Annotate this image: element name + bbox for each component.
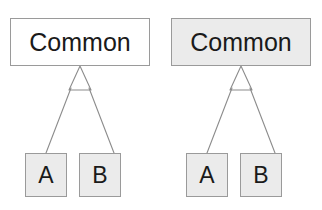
child-class-box-b: B [79,153,121,197]
inheritance-line-a [207,88,232,153]
child-class-label-b: B [253,164,268,187]
inheritance-line-b [89,88,114,153]
generalization-arrowhead [230,66,252,90]
parent-class-box: Common [10,18,150,66]
parent-class-label: Common [29,30,130,55]
inheritance-diagram-right: Common A B [161,0,322,210]
child-class-label-a: A [38,164,53,187]
child-class-box-a: A [186,153,228,197]
diagram-canvas: Common A B Common A B [0,0,322,210]
inheritance-line-b [250,88,275,153]
inheritance-diagram-left: Common A B [0,0,161,210]
child-class-box-a: A [25,153,67,197]
child-class-box-b: B [240,153,282,197]
generalization-arrowhead [69,66,91,90]
inheritance-line-a [46,88,71,153]
parent-class-label: Common [190,30,291,55]
child-class-label-a: A [199,164,214,187]
parent-class-box: Common [171,18,311,66]
child-class-label-b: B [92,164,107,187]
